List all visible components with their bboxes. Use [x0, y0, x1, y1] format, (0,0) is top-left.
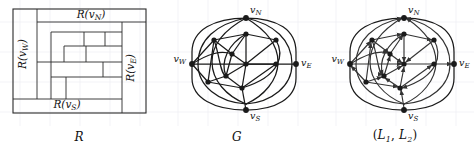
vertex-vW	[347, 61, 353, 67]
plane-graph-svg: vN vS vW vE	[158, 0, 316, 126]
label-vertex-east: vE	[459, 57, 470, 70]
vertex-interior-1	[369, 37, 374, 42]
label-region-south: R(vS)	[52, 98, 80, 112]
caption-panel-rectangular: R	[0, 130, 158, 144]
panel-orientation-pair: vN vS vW vE (L1, L2)	[316, 0, 474, 148]
vertex-interior-6	[431, 61, 436, 66]
label-vertex-west: vW	[331, 53, 344, 66]
label-region-west: R(vW)	[16, 39, 30, 70]
vertex-interior-6	[273, 61, 278, 66]
vertex-interior-3	[273, 37, 278, 42]
figure-three-panel: R(vN) R(vS) R(vW) R(vE) R	[0, 0, 474, 148]
vertex-interior-7	[363, 79, 368, 84]
vertex-interior-4	[387, 51, 392, 56]
rectangular-dissection-svg: R(vN) R(vS) R(vW) R(vE)	[0, 0, 158, 126]
label-region-east: R(vE)	[124, 54, 138, 83]
vertex-vW	[189, 61, 195, 67]
caption-close-paren: )	[412, 128, 417, 142]
vertex-interior-1	[211, 37, 216, 42]
caption-comma: ,	[391, 128, 399, 142]
vertex-interior-9	[239, 85, 244, 90]
vertex-interior-5	[401, 61, 406, 66]
vertex-interior-7	[205, 79, 210, 84]
vertex-interior-5	[243, 61, 248, 66]
label-vertex-west: vW	[173, 53, 186, 66]
vertex-vS	[243, 107, 249, 113]
vertex-vE	[451, 61, 457, 67]
caption-l1: L	[378, 128, 386, 142]
caption-panel-orientation: (L1, L2)	[316, 128, 474, 144]
label-vertex-north: vN	[250, 4, 262, 17]
label-vertex-east: vE	[301, 57, 312, 70]
orientation-pair-svg: vN vS vW vE	[316, 0, 474, 126]
vertex-vN	[401, 15, 407, 21]
vertex-interior-8	[381, 73, 386, 78]
vertex-vE	[293, 61, 299, 67]
vertex-vN	[243, 15, 249, 21]
label-vertex-north: vN	[408, 4, 420, 17]
label-region-north: R(vN)	[76, 8, 106, 22]
vertex-vS	[401, 107, 407, 113]
vertex-interior-8	[223, 73, 228, 78]
vertex-interior-9	[397, 85, 402, 90]
caption-l2: L	[399, 128, 407, 142]
caption-panel-graph: G	[158, 130, 316, 144]
panel-plane-graph: vN vS vW vE G	[158, 0, 316, 148]
vertex-interior-2	[401, 31, 406, 36]
caption-text-g: G	[232, 130, 242, 144]
vertex-interior-4	[229, 51, 234, 56]
vertex-interior-3	[431, 37, 436, 42]
panel-rectangular-dissection: R(vN) R(vS) R(vW) R(vE) R	[0, 0, 158, 148]
directed-edges	[350, 18, 452, 108]
caption-text-r: R	[74, 130, 83, 144]
vertex-interior-2	[243, 31, 248, 36]
